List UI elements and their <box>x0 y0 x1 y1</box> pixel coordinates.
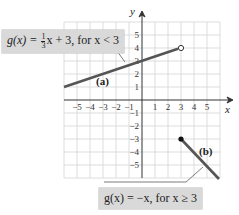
svg-text:1: 1 <box>135 82 140 92</box>
svg-text:3: 3 <box>179 102 184 112</box>
svg-text:−3: −3 <box>129 134 139 144</box>
series-a-line <box>64 49 178 87</box>
equation-a-rhs: x + 3, for x < 3 <box>46 33 119 47</box>
equation-b-box: g(x) = −x, for x ≥ 3 <box>99 188 202 209</box>
svg-text:−2: −2 <box>111 102 121 112</box>
equation-a-lhs: g(x) = <box>7 33 40 47</box>
svg-text:−5: −5 <box>129 160 139 170</box>
open-endpoint <box>178 45 183 50</box>
svg-text:−4: −4 <box>129 147 139 157</box>
x-tick-labels: −5 −4 −3 −2 −1 1 2 3 4 5 <box>72 102 210 112</box>
equation-a-box: g(x) = 13x + 3, for x < 3 <box>2 30 124 53</box>
svg-text:−1: −1 <box>129 108 139 118</box>
svg-text:4: 4 <box>192 102 197 112</box>
svg-text:5: 5 <box>135 30 140 40</box>
y-axis-label: y <box>129 5 135 17</box>
svg-text:2: 2 <box>135 69 140 79</box>
equation-b-text: g(x) = −x, for x ≥ 3 <box>104 191 197 205</box>
svg-text:4: 4 <box>135 43 140 53</box>
svg-text:−5: −5 <box>72 102 82 112</box>
svg-text:−2: −2 <box>129 121 139 131</box>
svg-text:−3: −3 <box>98 102 108 112</box>
svg-text:2: 2 <box>166 102 171 112</box>
svg-text:−4: −4 <box>85 102 95 112</box>
svg-text:1: 1 <box>153 102 158 112</box>
svg-text:5: 5 <box>205 102 210 112</box>
label-a: (a) <box>96 75 109 88</box>
x-axis-label: x <box>224 103 230 115</box>
label-b: (b) <box>199 145 213 158</box>
closed-endpoint <box>178 136 183 141</box>
pointer-line-b-diag <box>186 167 203 182</box>
fraction-one-third: 13 <box>41 33 45 50</box>
